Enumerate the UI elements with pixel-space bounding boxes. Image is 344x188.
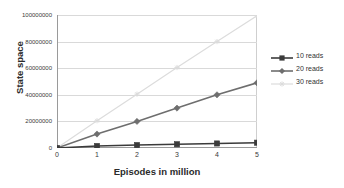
legend-item: 30 reads <box>270 75 344 88</box>
data-point-marker <box>254 140 257 145</box>
data-point-marker <box>134 118 140 124</box>
series-3 <box>57 15 257 148</box>
data-point-marker <box>214 141 219 146</box>
legend-marker-icon <box>270 50 294 62</box>
data-point-marker <box>94 131 100 137</box>
legend-marker-icon <box>270 63 294 75</box>
data-point-marker <box>254 80 257 86</box>
series-2 <box>57 80 257 148</box>
series-1 <box>57 140 257 148</box>
series-line <box>57 16 257 148</box>
x-axis-tick-label: 2 <box>135 151 139 158</box>
legend-label: 10 reads <box>294 52 323 59</box>
legend-item: 10 reads <box>270 49 344 62</box>
x-axis-tick-label: 1 <box>95 151 99 158</box>
data-point-marker <box>57 145 60 148</box>
legend-marker-icon <box>270 76 294 88</box>
data-point-marker <box>94 143 99 148</box>
plot-svg <box>57 15 257 148</box>
legend-item: 20 reads <box>270 62 344 75</box>
data-point-marker <box>94 118 99 123</box>
data-point-marker <box>174 142 179 147</box>
legend-label: 20 reads <box>294 65 323 72</box>
x-axis-tick-label: 3 <box>175 151 179 158</box>
x-axis-tick-label: 4 <box>215 151 219 158</box>
x-axis-tick-label: 0 <box>55 151 59 158</box>
series-line <box>57 83 257 148</box>
data-point-marker <box>174 105 180 111</box>
x-axis-title: Episodes in million <box>57 166 257 177</box>
chart-legend: 10 reads20 reads30 reads <box>270 49 344 88</box>
x-axis-tick-label: 5 <box>255 151 259 158</box>
legend-label: 30 reads <box>294 78 323 85</box>
line-chart: State space 0200000004000000060000000800… <box>0 0 344 188</box>
plot-area <box>57 15 257 148</box>
data-point-marker <box>134 142 139 147</box>
data-point-marker <box>214 92 220 98</box>
